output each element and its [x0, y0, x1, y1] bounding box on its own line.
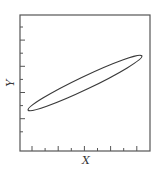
correlation-ellipse: [25, 50, 144, 116]
x-axis-ticks: [32, 146, 137, 151]
y-axis-label: Y: [4, 78, 17, 87]
plot-frame: [20, 15, 150, 151]
x-axis-label: X: [81, 154, 91, 167]
ellipse-plot: X Y: [0, 0, 162, 172]
y-axis-ticks: [20, 27, 25, 132]
